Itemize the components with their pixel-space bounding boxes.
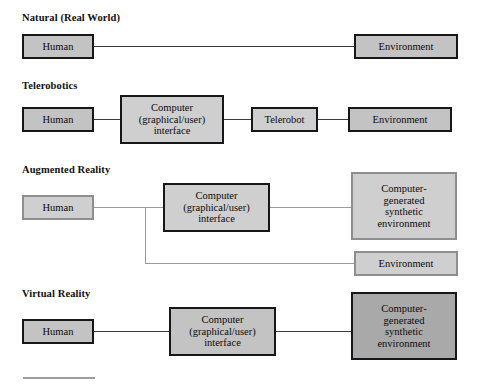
node-tele-telerobot: Telerobot bbox=[251, 107, 318, 132]
connector-ar-human-computer bbox=[92, 207, 165, 208]
node-vr-computer-interface: Computer (graphical/user) interface bbox=[169, 307, 276, 356]
section-label-augmented-reality: Augmented Reality bbox=[22, 164, 110, 175]
node-vr-synthetic-line3: synthetic bbox=[385, 326, 423, 338]
node-tele-environment-label: Environment bbox=[373, 114, 428, 126]
connector-vr-human-computer bbox=[92, 331, 171, 332]
node-vr-synthetic-line2: generated bbox=[384, 315, 425, 327]
section-label-virtual-reality: Virtual Reality bbox=[22, 288, 90, 299]
node-vr-synthetic-line1: Computer- bbox=[381, 303, 426, 315]
section-label-telerobotics: Telerobotics bbox=[22, 80, 77, 91]
node-ar-environment: Environment bbox=[354, 251, 458, 276]
node-ar-human: Human bbox=[22, 195, 94, 220]
node-natural-environment: Environment bbox=[354, 34, 458, 59]
connector-tele-human-computer bbox=[92, 119, 122, 120]
node-vr-computer-line2: (graphical/user) bbox=[189, 326, 255, 338]
node-ar-computer-line1: Computer bbox=[196, 190, 238, 202]
node-vr-synthetic-environment: Computer- generated synthetic environmen… bbox=[351, 292, 457, 360]
node-vr-human-label: Human bbox=[43, 326, 74, 338]
section-label-natural: Natural (Real World) bbox=[22, 12, 120, 23]
node-tele-telerobot-label: Telerobot bbox=[264, 114, 304, 126]
connector-natural-human-environment bbox=[92, 46, 356, 47]
node-ar-human-label: Human bbox=[43, 202, 74, 214]
connector-ar-branch-environment bbox=[145, 263, 356, 264]
node-ar-computer-interface: Computer (graphical/user) interface bbox=[163, 183, 270, 232]
node-ar-synthetic-line3: synthetic bbox=[385, 206, 423, 218]
footer-rule bbox=[23, 377, 95, 379]
node-tele-human: Human bbox=[22, 107, 94, 132]
node-vr-synthetic-line4: environment bbox=[377, 338, 430, 350]
node-tele-computer-interface: Computer (graphical/user) interface bbox=[120, 95, 224, 144]
node-natural-human-label: Human bbox=[43, 41, 74, 53]
node-ar-environment-label: Environment bbox=[379, 258, 434, 270]
node-natural-human: Human bbox=[22, 34, 94, 59]
node-tele-computer-line3: interface bbox=[154, 125, 191, 137]
node-ar-computer-line3: interface bbox=[198, 213, 235, 225]
node-vr-human: Human bbox=[22, 319, 94, 344]
connector-tele-computer-telerobot bbox=[222, 119, 253, 120]
node-ar-synthetic-line4: environment bbox=[377, 218, 430, 230]
connector-ar-branch-vertical bbox=[145, 207, 146, 264]
node-ar-synthetic-line1: Computer- bbox=[381, 183, 426, 195]
connector-tele-telerobot-environment bbox=[316, 119, 350, 120]
node-tele-computer-line2: (graphical/user) bbox=[139, 114, 205, 126]
diagram-canvas: Natural (Real World) Human Environment T… bbox=[0, 0, 480, 385]
node-vr-computer-line1: Computer bbox=[202, 314, 244, 326]
node-natural-environment-label: Environment bbox=[379, 41, 434, 53]
connector-vr-computer-synthetic bbox=[274, 331, 353, 332]
node-tele-computer-line1: Computer bbox=[151, 102, 193, 114]
node-ar-synthetic-line2: generated bbox=[384, 195, 425, 207]
node-vr-computer-line3: interface bbox=[204, 337, 241, 349]
node-ar-synthetic-environment: Computer- generated synthetic environmen… bbox=[351, 172, 457, 240]
node-tele-environment: Environment bbox=[348, 107, 452, 132]
node-tele-human-label: Human bbox=[43, 114, 74, 126]
connector-ar-computer-synthetic bbox=[268, 207, 353, 208]
node-ar-computer-line2: (graphical/user) bbox=[183, 202, 249, 214]
